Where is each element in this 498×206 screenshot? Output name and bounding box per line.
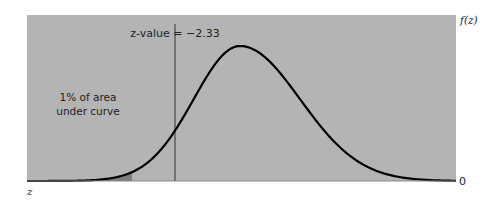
y-axis-label: f(z) bbox=[459, 14, 478, 26]
x-axis-label: z bbox=[26, 186, 33, 197]
area-annotation-line-1: 1% of area bbox=[60, 91, 117, 103]
critical-value-label: z-value = −2.33 bbox=[130, 27, 219, 40]
y-origin-label: 0 bbox=[459, 175, 466, 188]
normal-distribution-chart: z-value = −2.33 1% of area under curve f… bbox=[0, 0, 498, 206]
area-annotation-line-2: under curve bbox=[56, 105, 120, 117]
